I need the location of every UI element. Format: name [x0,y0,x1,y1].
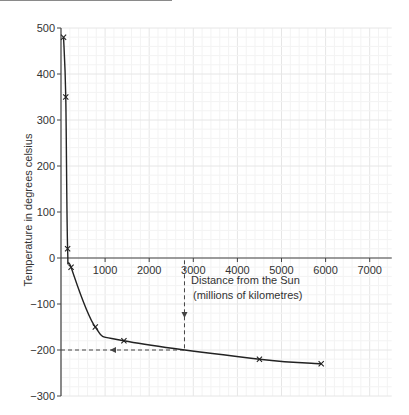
y-tick-label: −200 [30,344,55,356]
y-tick-label: 500 [37,22,55,34]
data-point-x-marker [93,324,98,329]
y-tick-label: 0 [49,252,55,264]
x-tick-label: 7000 [357,264,381,276]
x-axis-title-line1: Distance from the Sun [191,274,300,286]
dashed-annotations [61,260,187,353]
y-tick-label: 100 [37,206,55,218]
y-tick-label: −300 [30,390,55,402]
x-tick-label: 6000 [313,264,337,276]
arrow-left-icon [110,347,116,353]
x-tick-label: 1000 [93,264,117,276]
grid [61,28,392,396]
temperature-distance-chart: 1000200030004000500060007000 50040030020… [0,0,409,415]
y-tick-label: 400 [37,68,55,80]
y-tick-label: −100 [30,298,55,310]
temperature-curve [64,37,322,364]
y-tick-label: 200 [37,160,55,172]
x-tick-label: 2000 [137,264,161,276]
arrow-down-icon [181,312,187,318]
data-series [61,35,324,367]
y-axis-title: Temperature in degrees celsius [22,133,34,286]
x-axis-title-line2: (millions of kilometres) [193,289,302,301]
y-tick-label: 300 [37,114,55,126]
y-tick-labels: 5004003002001000−100−200−300 [30,22,61,402]
